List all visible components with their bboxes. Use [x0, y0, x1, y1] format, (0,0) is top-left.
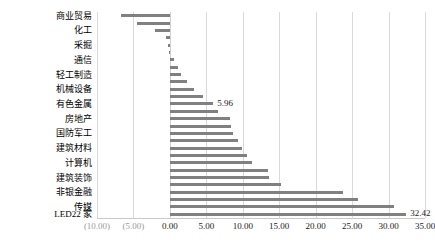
bar-row — [97, 93, 425, 100]
bar-row — [97, 137, 425, 144]
category-label: 采掘 — [74, 40, 92, 50]
category-label: 国防军工 — [56, 128, 92, 138]
category-label: 通信 — [74, 55, 92, 65]
category-label: 轻工制造 — [56, 70, 92, 80]
bar-row — [97, 115, 425, 122]
bar — [170, 191, 343, 194]
bar-row: 32.42 — [97, 211, 425, 218]
bar-row — [97, 41, 425, 48]
bar — [170, 147, 242, 150]
bar — [170, 95, 203, 98]
category-label: 化工 — [74, 25, 92, 35]
bar-row — [97, 86, 425, 93]
bar-row — [97, 181, 425, 188]
category-label: 机械设备 — [56, 84, 92, 94]
category-label: 商业贸易 — [56, 11, 92, 21]
bar-row — [97, 174, 425, 181]
bar — [155, 29, 170, 32]
bar — [137, 22, 170, 25]
bar — [170, 132, 233, 135]
bar-row — [97, 203, 425, 210]
bar — [170, 66, 178, 69]
bar — [170, 169, 268, 172]
x-tick-label: 30.00 — [378, 220, 398, 232]
category-axis-labels: 商业贸易化工采掘通信轻工制造机械设备有色金属房地产国防军工建筑材料计算机建筑装饰… — [0, 12, 92, 218]
bar — [170, 125, 231, 128]
x-tick-label: 25.00 — [342, 220, 362, 232]
category-label: 建筑材料 — [56, 143, 92, 153]
category-label: 有色金属 — [56, 99, 92, 109]
bar-rows: 5.9632.42 — [97, 12, 425, 218]
bar — [170, 154, 247, 157]
bar — [170, 176, 269, 179]
bar-row — [97, 108, 425, 115]
bar-row — [97, 78, 425, 85]
bar — [170, 205, 394, 208]
bar — [170, 183, 281, 186]
x-tick-label: 35.00 — [415, 220, 435, 232]
bar-row — [97, 130, 425, 137]
bar — [170, 102, 213, 105]
bar-row — [97, 189, 425, 196]
bar-row — [97, 64, 425, 71]
bar-row — [97, 19, 425, 26]
x-axis-line — [97, 218, 425, 219]
x-tick-label: 5.00 — [198, 220, 214, 232]
category-label: 计算机 — [65, 158, 92, 168]
x-tick-label: (5.00) — [123, 220, 145, 232]
bar-row — [97, 49, 425, 56]
bar — [170, 73, 181, 76]
bar-row — [97, 144, 425, 151]
x-tick-label: 10.00 — [233, 220, 253, 232]
bar-row — [97, 12, 425, 19]
x-tick-label: 15.00 — [269, 220, 289, 232]
x-axis-tick-labels: (10.00)(5.00)0.005.0010.0015.0020.0025.0… — [0, 220, 433, 234]
bar — [169, 51, 170, 54]
bar — [170, 117, 230, 120]
category-label: LED22 家 — [54, 209, 92, 219]
bar — [170, 139, 239, 142]
bar — [170, 213, 406, 216]
x-tick-label: (10.00) — [84, 220, 110, 232]
gridline — [425, 12, 426, 218]
category-label: 建筑装饰 — [56, 173, 92, 183]
category-label: 房地产 — [65, 114, 92, 124]
bar-row — [97, 196, 425, 203]
bar-row — [97, 167, 425, 174]
bar-row — [97, 71, 425, 78]
x-tick-label: 20.00 — [306, 220, 326, 232]
bar-row — [97, 152, 425, 159]
x-tick-label: 0.00 — [162, 220, 178, 232]
bar-row — [97, 159, 425, 166]
bar — [170, 88, 194, 91]
bar — [170, 110, 218, 113]
bar-row — [97, 34, 425, 41]
bar — [170, 198, 358, 201]
bar — [166, 36, 170, 39]
bar — [168, 44, 170, 47]
bar-row: 5.96 — [97, 100, 425, 107]
bar — [170, 58, 174, 61]
bar-row — [97, 122, 425, 129]
bar — [170, 80, 187, 83]
bar — [121, 14, 170, 17]
plot-area: 5.9632.42 — [97, 12, 425, 218]
bar-row — [97, 27, 425, 34]
bar-row — [97, 56, 425, 63]
category-label: 非银金融 — [56, 187, 92, 197]
bar — [170, 161, 252, 164]
